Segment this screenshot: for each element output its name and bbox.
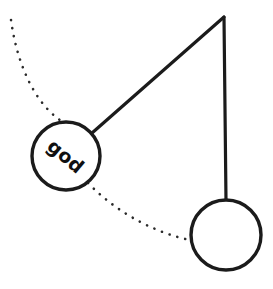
pendulum-diagram-canvas: god: [0, 0, 273, 289]
bob-rest-circle: [191, 200, 261, 270]
rod-vertical: [224, 17, 226, 201]
pendulum-figure: god: [0, 0, 273, 289]
